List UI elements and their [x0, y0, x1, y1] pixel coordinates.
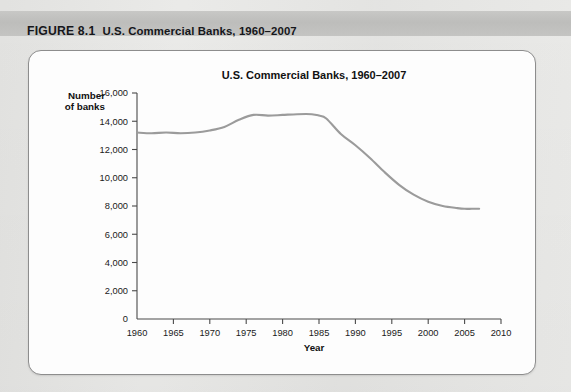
line-chart: U.S. Commercial Banks, 1960–2007 Number … [29, 51, 535, 374]
x-tick-label: 1990 [345, 328, 366, 338]
y-axis-label-line2: of banks [65, 101, 106, 112]
y-axis-ticks: 02,0004,0006,0008,00010,00012,00014,0001… [100, 88, 137, 324]
y-tick-label: 12,000 [100, 145, 128, 155]
figure-header-band: FIGURE 8.1U.S. Commercial Banks, 1960–20… [0, 11, 571, 36]
x-tick-label: 2005 [454, 328, 475, 338]
data-series-line [137, 114, 479, 209]
figure-header-text: FIGURE 8.1U.S. Commercial Banks, 1960–20… [27, 24, 297, 38]
y-tick-label: 10,000 [100, 173, 128, 183]
x-axis-ticks: 1960196519701975198019851990199520002005… [127, 319, 512, 338]
x-tick-label: 1995 [381, 328, 402, 338]
y-tick-label: 8,000 [105, 201, 128, 211]
figure-caption: U.S. Commercial Banks, 1960–2007 [102, 25, 296, 37]
chart-title: U.S. Commercial Banks, 1960–2007 [222, 69, 407, 81]
chart-canvas: U.S. Commercial Banks, 1960–2007 Number … [29, 51, 535, 374]
x-tick-label: 2000 [418, 328, 439, 338]
x-axis-label: Year [304, 342, 325, 353]
x-tick-label: 2010 [491, 328, 512, 338]
x-tick-label: 1975 [236, 328, 257, 338]
x-tick-label: 1965 [163, 328, 184, 338]
figure-number: FIGURE 8.1 [27, 24, 95, 38]
x-tick-label: 1960 [127, 328, 148, 338]
x-tick-label: 1985 [309, 328, 330, 338]
chart-card: U.S. Commercial Banks, 1960–2007 Number … [28, 50, 536, 375]
y-tick-label: 0 [123, 314, 128, 324]
x-tick-label: 1970 [199, 328, 220, 338]
y-tick-label: 4,000 [105, 258, 128, 268]
y-tick-label: 2,000 [105, 286, 128, 296]
y-tick-label: 14,000 [100, 117, 128, 127]
y-tick-label: 16,000 [100, 88, 128, 98]
x-tick-label: 1980 [272, 328, 293, 338]
y-tick-label: 6,000 [105, 230, 128, 240]
